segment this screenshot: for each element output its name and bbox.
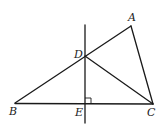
- label-c: C: [147, 106, 156, 119]
- segment-ac: [131, 26, 153, 104]
- segment-ab: [15, 26, 131, 103]
- segment-dc: [85, 56, 153, 104]
- label-e: E: [74, 106, 83, 119]
- label-b: B: [8, 105, 17, 118]
- label-a: A: [127, 11, 136, 24]
- segment-bc: [15, 104, 153, 105]
- geometry-diagram: A B C D E: [0, 0, 164, 129]
- right-angle-mark: [85, 98, 91, 104]
- label-d: D: [73, 48, 83, 61]
